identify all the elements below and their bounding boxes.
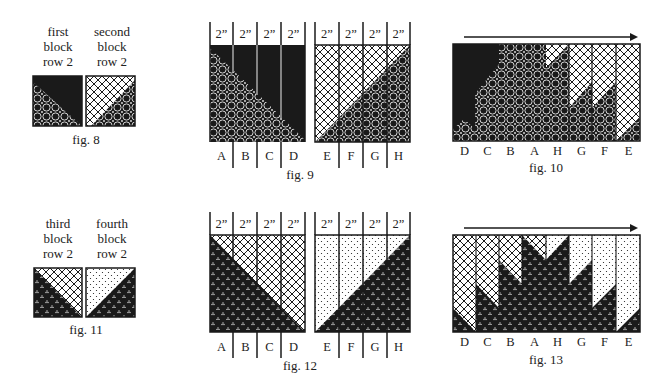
fig8-caption: fig. 8 [56,132,116,147]
fig10-order-labels: D C B A H G F E [453,144,640,160]
fig13-caption: fig. 13 [516,352,576,367]
fig10-caption: fig. 10 [516,160,576,175]
fig11-block1-label: third block row 2 [30,216,86,261]
fig12-caption: fig. 12 [270,358,330,373]
fig8-block1 [33,76,82,126]
fig12-strip-labels: A B C D E F G H [210,340,420,356]
fig11-caption: fig. 11 [56,322,116,337]
fig13-order-labels: D C B A H G F E [453,335,640,351]
fig13-diagram [452,225,642,335]
fig9-caption: fig. 9 [270,167,330,182]
fig11-block1 [34,268,82,317]
fig8-block1-label: first block row 2 [30,24,86,69]
fig8-block2 [86,76,135,126]
fig11-block2-label: fourth block row 2 [84,216,140,261]
fig8-block2-label: second block row 2 [84,24,140,69]
fig9-strip-labels: A B C D E F G H [210,149,420,165]
fig9-width-labels: 2” 2” 2” 2” 2” 2” 2” 2” [210,27,420,43]
fig12-width-labels: 2” 2” 2” 2” 2” 2” 2” 2” [210,217,420,233]
fig11-block2 [86,268,135,317]
fig10-diagram [452,34,642,144]
